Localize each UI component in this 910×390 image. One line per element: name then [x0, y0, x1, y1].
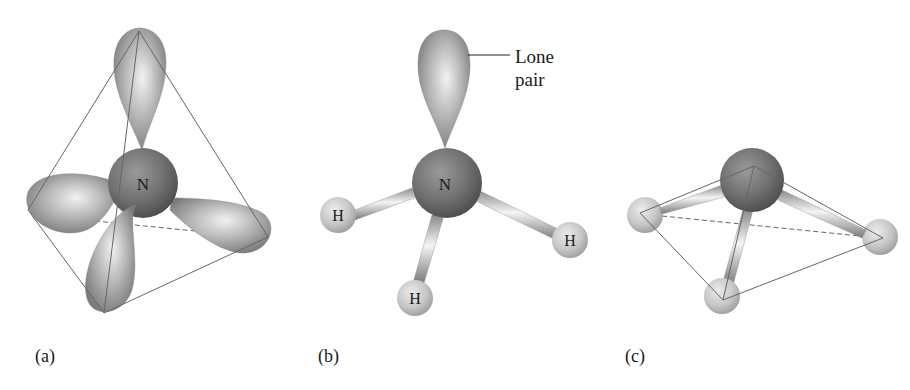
panel-label-b: (b)	[318, 346, 339, 367]
bond-left	[660, 185, 724, 214]
bond-right	[778, 190, 866, 238]
orbital-lobe-left	[27, 174, 118, 233]
atom-label-n: N	[137, 175, 149, 194]
orbital-lobe-top	[114, 28, 166, 150]
atom-label-h: H	[564, 232, 576, 249]
bond-left	[355, 188, 414, 220]
figure-canvas: N (a) Lone pair N H H H (b)	[0, 0, 910, 390]
hydrogen-atom-left	[627, 197, 663, 233]
central-atom	[720, 148, 784, 212]
atom-label-n: N	[439, 175, 451, 194]
atom-label-h: H	[332, 207, 344, 224]
panel-a: N (a)	[27, 28, 271, 367]
panel-label-c: (c)	[625, 346, 645, 367]
panel-c: (c)	[625, 148, 898, 367]
bond-bottom	[722, 210, 753, 285]
panel-b: Lone pair N H H H (b)	[318, 30, 588, 367]
bond-bottom	[413, 215, 444, 283]
panel-label-a: (a)	[35, 346, 55, 367]
hydrogen-atom-right	[862, 219, 898, 255]
atom-label-h: H	[409, 290, 421, 307]
lone-pair-label-line1: Lone	[515, 46, 554, 67]
orbital-lobe-right	[170, 198, 271, 253]
lone-pair-lobe	[418, 30, 470, 148]
bond-right	[474, 190, 560, 240]
lone-pair-label-line2: pair	[515, 69, 545, 90]
